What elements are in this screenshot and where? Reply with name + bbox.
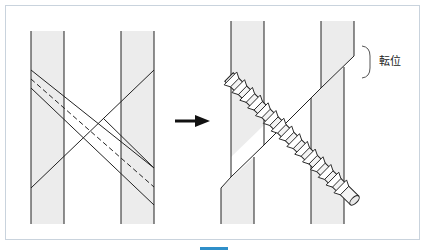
right-arrow-icon: [175, 115, 210, 127]
bone-bar-right: [121, 31, 154, 224]
bracket-icon: [362, 46, 370, 78]
before-panel: [31, 31, 154, 224]
displacement-label: 転位: [379, 52, 401, 68]
after-panel: [221, 21, 370, 224]
displacement-diagram: [0, 0, 422, 250]
bone-bar-left: [31, 31, 64, 224]
